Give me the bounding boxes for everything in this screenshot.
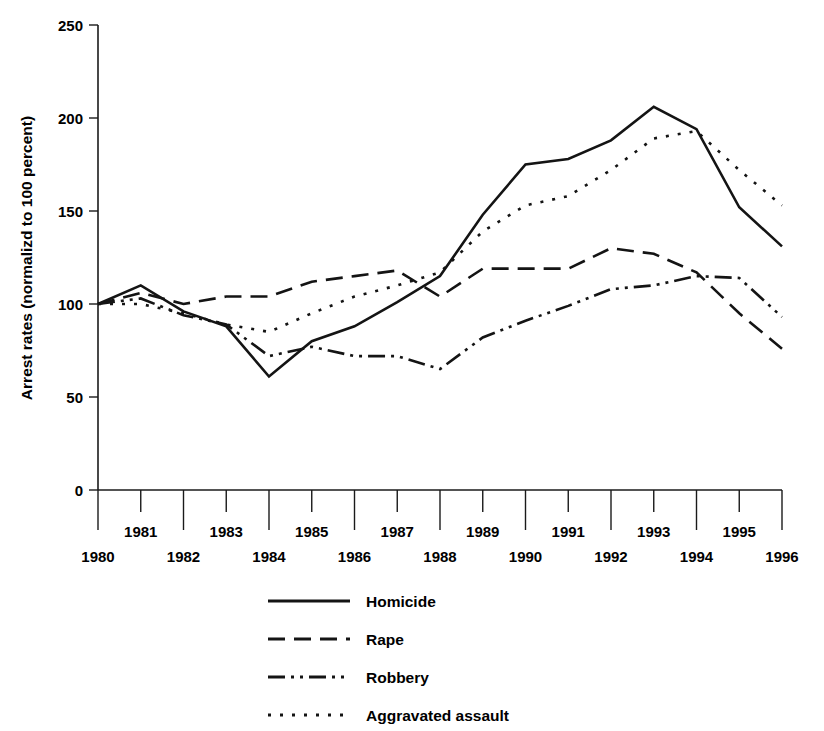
axes-group bbox=[98, 25, 782, 490]
legend-label-aggravated-assault: Aggravated assault bbox=[366, 707, 509, 724]
x-tick-label: 1987 bbox=[381, 523, 414, 540]
y-tick-label: 150 bbox=[58, 203, 83, 220]
x-tick-label: 1988 bbox=[423, 548, 456, 565]
x-tick-label: 1983 bbox=[210, 523, 243, 540]
x-tick-label: 1981 bbox=[124, 523, 157, 540]
y-tick-label: 200 bbox=[58, 110, 83, 127]
x-tick-label: 1985 bbox=[295, 523, 328, 540]
x-axis-ticks: 1980198119821983198419851986198719881989… bbox=[81, 490, 798, 565]
chart-canvas: 0501001502002501980198119821983198419851… bbox=[0, 0, 824, 731]
x-tick-label: 1982 bbox=[167, 548, 200, 565]
x-tick-label: 1996 bbox=[765, 548, 798, 565]
legend-label-homicide: Homicide bbox=[366, 593, 436, 610]
legend: HomicideRapeRobberyAggravated assault bbox=[268, 593, 509, 724]
y-tick-label: 100 bbox=[58, 296, 83, 313]
series-line-robbery bbox=[98, 276, 782, 369]
legend-label-robbery: Robbery bbox=[366, 669, 429, 686]
series-group bbox=[98, 107, 782, 377]
arrest-rates-line-chart: 0501001502002501980198119821983198419851… bbox=[0, 0, 824, 731]
series-line-rape bbox=[98, 248, 782, 348]
y-axis-title: Arrest rates (normalizd to 100 percent) bbox=[18, 116, 35, 400]
x-tick-label: 1990 bbox=[509, 548, 542, 565]
x-tick-label: 1986 bbox=[338, 548, 371, 565]
x-tick-label: 1993 bbox=[637, 523, 670, 540]
y-tick-label: 50 bbox=[66, 389, 83, 406]
x-tick-label: 1995 bbox=[723, 523, 756, 540]
series-line-homicide bbox=[98, 107, 782, 377]
x-tick-label: 1991 bbox=[552, 523, 585, 540]
y-tick-label: 0 bbox=[75, 482, 83, 499]
x-tick-label: 1992 bbox=[594, 548, 627, 565]
x-tick-label: 1984 bbox=[252, 548, 286, 565]
x-tick-label: 1980 bbox=[81, 548, 114, 565]
x-tick-label: 1989 bbox=[466, 523, 499, 540]
y-tick-label: 250 bbox=[58, 17, 83, 34]
x-tick-label: 1994 bbox=[680, 548, 714, 565]
y-axis-ticks: 050100150200250 bbox=[58, 17, 98, 499]
legend-label-rape: Rape bbox=[366, 631, 404, 648]
